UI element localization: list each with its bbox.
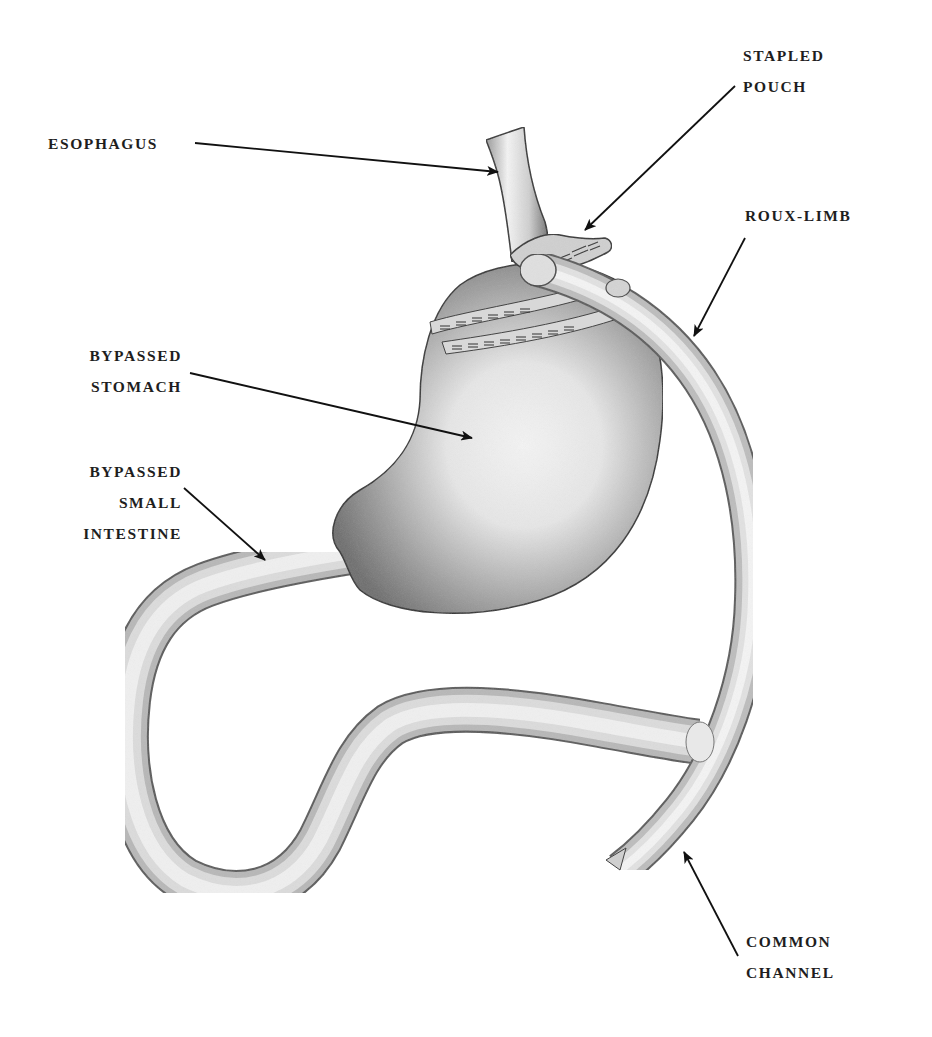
label-line: INTESTINE [83,518,182,549]
label-stapled-pouch: STAPLED POUCH [743,40,825,102]
label-bypassed-small-intestine: BYPASSED SMALL INTESTINE [83,456,182,549]
label-common-channel: COMMON CHANNEL [746,926,835,988]
label-line: ESOPHAGUS [48,128,158,159]
label-bypassed-stomach: BYPASSED STOMACH [89,340,182,402]
roux-limb-leader [694,238,745,336]
stapled-pouch-leader [585,86,735,230]
label-esophagus: ESOPHAGUS [48,128,158,159]
esophagus-leader [195,143,498,172]
label-roux-limb: ROUX-LIMB [745,200,852,231]
label-line: STOMACH [89,371,182,402]
label-line: BYPASSED [83,456,182,487]
label-line: STAPLED [743,40,825,71]
label-line: SMALL [83,487,182,518]
label-line: ROUX-LIMB [745,200,852,231]
label-line: CHANNEL [746,957,835,988]
common-channel-leader [684,852,738,956]
bypassed-small-intestine-leader [184,488,265,560]
label-line: BYPASSED [89,340,182,371]
label-line: COMMON [746,926,835,957]
label-line: POUCH [743,71,825,102]
